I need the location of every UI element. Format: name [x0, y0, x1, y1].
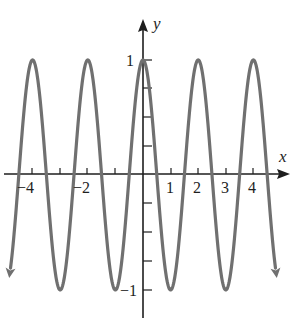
x-tick-label-1: 1	[166, 179, 174, 196]
y-axis-label: y	[151, 14, 161, 33]
x-tick-label-neg2: −2	[73, 179, 90, 196]
x-tick-label-2: 2	[193, 179, 201, 196]
x-axis-label: x	[278, 147, 287, 166]
graph: x y −4 −2 1 2 3 4 1 −1	[0, 0, 301, 330]
x-tick-label-3: 3	[221, 179, 229, 196]
y-tick-label-neg1: −1	[120, 282, 137, 299]
x-tick-label-neg4: −4	[17, 179, 34, 196]
y-tick-label-1: 1	[126, 52, 134, 69]
x-tick-label-4: 4	[248, 179, 256, 196]
